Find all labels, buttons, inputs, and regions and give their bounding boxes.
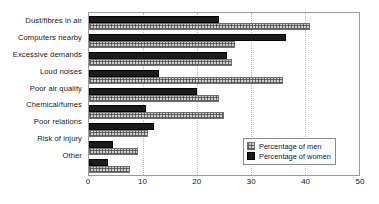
bar-men	[89, 166, 130, 173]
category-axis-labels: Dust/fibres in air Computers nearby Exce…	[0, 12, 85, 164]
bar-men	[89, 41, 235, 48]
x-axis-tick-label: 0	[86, 177, 90, 186]
bar-women	[89, 16, 219, 23]
category-label: Risk of injury	[0, 130, 85, 147]
bar-women	[89, 123, 154, 130]
legend-item-women: Percentage of women	[247, 151, 331, 161]
bar-women	[89, 141, 113, 148]
x-axis-tick-label: 20	[192, 177, 201, 186]
bar-women	[89, 88, 197, 95]
bar-group	[89, 103, 359, 121]
bar-chart: Dust/fibres in air Computers nearby Exce…	[0, 0, 379, 204]
legend-swatch-women-icon	[247, 152, 255, 160]
bar-group	[89, 86, 359, 104]
bar-men	[89, 130, 148, 137]
category-label: Computers nearby	[0, 29, 85, 46]
legend-item-men: Percentage of men	[247, 141, 331, 151]
bar-group	[89, 50, 359, 68]
bar-group	[89, 121, 359, 139]
x-axis-tick-label: 30	[247, 177, 256, 186]
legend: Percentage of men Percentage of women	[243, 138, 336, 165]
legend-swatch-men-icon	[247, 142, 255, 150]
bar-men	[89, 23, 310, 30]
category-label: Loud noises	[0, 63, 85, 80]
category-label: Chemical/fumes	[0, 96, 85, 113]
legend-label-men: Percentage of men	[259, 142, 321, 151]
bar-women	[89, 52, 227, 59]
category-label: Dust/fibres in air	[0, 12, 85, 29]
category-label: Excessive demands	[0, 46, 85, 63]
bar-women	[89, 70, 159, 77]
bar-men	[89, 77, 283, 84]
legend-label-women: Percentage of women	[259, 152, 331, 161]
category-label: Poor relations	[0, 113, 85, 130]
category-label: Other	[0, 147, 85, 164]
bar-women	[89, 159, 108, 166]
bar-men	[89, 148, 138, 155]
bar-women	[89, 105, 146, 112]
x-axis-tick-label: 10	[138, 177, 147, 186]
bar-group	[89, 32, 359, 50]
x-axis-ticks: 01020304050	[88, 177, 360, 195]
x-axis-tick-label: 50	[356, 177, 365, 186]
bar-men	[89, 59, 232, 66]
bar-men	[89, 95, 219, 102]
bar-group	[89, 14, 359, 32]
category-label: Poor air quality	[0, 80, 85, 97]
bar-women	[89, 34, 286, 41]
bar-men	[89, 112, 224, 119]
x-axis-tick-label: 40	[301, 177, 310, 186]
bar-group	[89, 68, 359, 86]
